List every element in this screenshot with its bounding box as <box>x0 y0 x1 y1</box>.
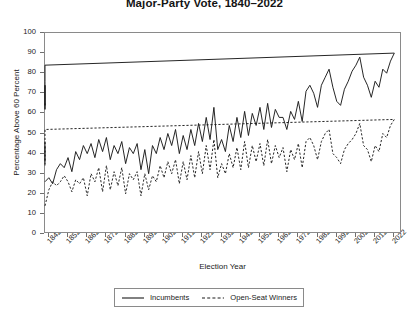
chart-title: Major-Party Vote, 1840–2022 <box>0 0 409 9</box>
y-tick-label-60: 60 <box>10 107 36 116</box>
legend-item-open-seat-winners: Open-Seat Winners <box>201 293 297 302</box>
chart-root: Major-Party Vote, 1840–2022 Percentage A… <box>0 0 409 313</box>
y-tick-label-40: 40 <box>10 148 36 157</box>
y-tick-label-100: 100 <box>10 27 36 36</box>
series-line-0 <box>45 53 394 184</box>
plot-area <box>44 32 401 233</box>
x-axis-title: Election Year <box>44 262 401 271</box>
legend-swatch-solid-icon <box>121 294 145 302</box>
y-tick-label-30: 30 <box>10 168 36 177</box>
y-tick-label-0: 0 <box>10 228 36 237</box>
chart-legend: Incumbents Open-Seat Winners <box>114 288 304 307</box>
legend-swatch-dashed-icon <box>201 294 225 302</box>
y-tick-label-80: 80 <box>10 67 36 76</box>
y-tick-label-20: 20 <box>10 188 36 197</box>
series-line-1 <box>45 119 394 205</box>
legend-item-incumbents: Incumbents <box>121 293 189 302</box>
y-tick-label-50: 50 <box>10 128 36 137</box>
y-tick-label-10: 10 <box>10 208 36 217</box>
y-tick-label-70: 70 <box>10 87 36 96</box>
legend-label-incumbents: Incumbents <box>150 293 189 302</box>
legend-label-open-seat-winners: Open-Seat Winners <box>230 293 297 302</box>
y-tick-mark <box>40 233 44 234</box>
y-tick-label-90: 90 <box>10 47 36 56</box>
series-lines <box>45 33 402 234</box>
